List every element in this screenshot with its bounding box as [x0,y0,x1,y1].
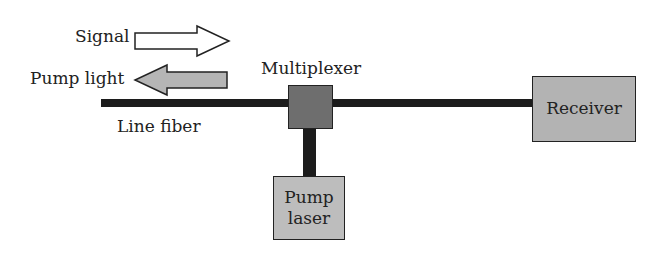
pump-laser-box: Pump laser [273,176,345,240]
signal-label: Signal [75,28,130,45]
pump-laser-label-line2: laser [288,208,330,229]
pump-light-label: Pump light [30,70,124,87]
pump-light-arrow-icon [133,63,231,97]
multiplexer-label: Multiplexer [261,60,361,77]
multiplexer-box [288,85,333,129]
signal-arrow-icon [133,24,233,58]
line-fiber-label: Line fiber [117,118,201,135]
pump-laser-label-line1: Pump [284,187,333,208]
receiver-box: Receiver [532,76,636,142]
pump-fiber [303,126,316,178]
receiver-label: Receiver [546,98,622,119]
